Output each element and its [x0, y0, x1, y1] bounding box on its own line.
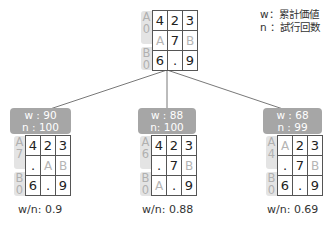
cell: 7	[293, 156, 308, 176]
n-value: n : 100	[10, 121, 71, 133]
cell: 6	[278, 176, 293, 196]
root-tab-b: B 0	[141, 47, 152, 70]
tab-count: 0	[14, 184, 25, 196]
w-value: w : 88	[138, 109, 196, 121]
n-value: n : 99	[263, 121, 322, 133]
cell: 2	[168, 11, 183, 31]
cell: 3	[56, 136, 71, 156]
win-ratio: w/n: 0.88	[142, 203, 193, 216]
cell: .	[41, 176, 56, 196]
cell: B	[56, 156, 71, 176]
stats-badge: w : 68 n : 99	[263, 108, 322, 134]
cell: .	[152, 156, 167, 176]
tab-count: 0	[266, 184, 277, 196]
stats-badge: w : 88 n: 100	[138, 108, 196, 134]
tab-count: 0	[140, 184, 151, 196]
cell: 9	[182, 176, 197, 196]
cell: A	[278, 136, 293, 156]
cell: .	[167, 176, 182, 196]
board: 4 2 3 . 7 B A . 9	[151, 135, 197, 196]
tab-a: A 6	[140, 136, 151, 169]
cell: 7	[168, 31, 183, 51]
tab-b: B 0	[14, 172, 25, 196]
tab-a: A 7	[14, 136, 25, 169]
cell: .	[26, 156, 41, 176]
cell: .	[168, 51, 183, 71]
cell: B	[182, 156, 197, 176]
root-tab-a: A 0	[141, 11, 152, 44]
cell: 9	[308, 176, 323, 196]
cell: 3	[308, 136, 323, 156]
cell: 9	[56, 176, 71, 196]
tab-count: 6	[140, 148, 151, 160]
tab-count: 0	[141, 59, 152, 71]
tab-a: A 4	[266, 136, 277, 169]
w-value: w : 68	[263, 109, 322, 121]
win-ratio: w/n: 0.9	[18, 203, 62, 216]
cell: 4	[152, 136, 167, 156]
cell: 9	[183, 51, 198, 71]
cell: A	[153, 31, 168, 51]
cell: .	[278, 156, 293, 176]
cell: 2	[167, 136, 182, 156]
cell: 3	[182, 136, 197, 156]
edge-left	[50, 70, 167, 109]
n-value: n: 100	[138, 121, 196, 133]
w-value: w : 90	[10, 109, 71, 121]
win-ratio: w/n: 0.69	[267, 203, 318, 216]
cell: 2	[293, 136, 308, 156]
tab-count: 7	[14, 148, 25, 160]
cell: 3	[183, 11, 198, 31]
cell: 6	[26, 176, 41, 196]
cell: 4	[153, 11, 168, 31]
cell: 2	[41, 136, 56, 156]
tab-count: 0	[141, 23, 152, 35]
tab-b: B 0	[140, 172, 151, 196]
edge-right	[167, 70, 283, 109]
tab-b: B 0	[266, 172, 277, 196]
board: A 2 3 . 7 B 6 . 9	[277, 135, 323, 196]
root-board: 4 2 3 A 7 B 6 . 9	[152, 10, 198, 71]
stats-badge: w : 90 n : 100	[10, 108, 71, 134]
tab-count: 4	[266, 148, 277, 160]
cell: B	[183, 31, 198, 51]
board: 4 2 3 . A B 6 . 9	[25, 135, 71, 196]
cell: 7	[167, 156, 182, 176]
cell: 6	[153, 51, 168, 71]
cell: A	[152, 176, 167, 196]
cell: 4	[26, 136, 41, 156]
cell: A	[41, 156, 56, 176]
cell: .	[293, 176, 308, 196]
cell: B	[308, 156, 323, 176]
